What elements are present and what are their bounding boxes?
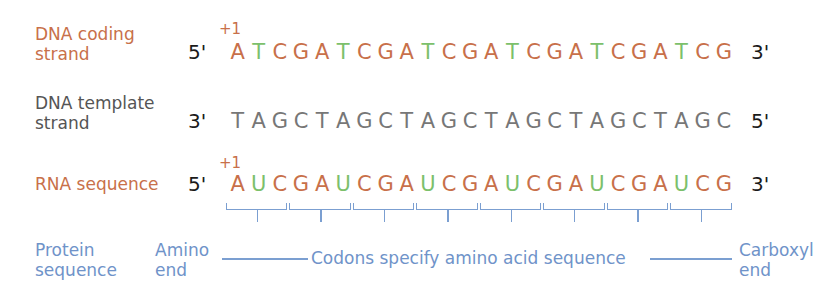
carboxyl-connector-line <box>650 258 732 260</box>
template-base: G <box>269 109 290 133</box>
template-base: C <box>713 109 734 133</box>
template-base: T <box>396 109 417 133</box>
coding-base: C <box>354 40 375 64</box>
template-base: C <box>544 109 565 133</box>
template-5prime-end: 5' <box>751 109 769 133</box>
rna-5prime-end: 5' <box>188 172 206 196</box>
rna-base: C <box>692 172 713 196</box>
codon-bracket <box>289 203 350 210</box>
rna-base: A <box>312 172 333 196</box>
template-base: A <box>671 109 692 133</box>
codon-tick <box>511 210 513 222</box>
coding-strand-label: DNA coding strand <box>35 24 135 64</box>
coding-base: A <box>650 40 671 64</box>
coding-base: C <box>438 40 459 64</box>
template-base: A <box>333 109 354 133</box>
amino-end-label: Amino end <box>155 240 209 280</box>
coding-start-marker: +1 <box>219 21 241 37</box>
codon-tick <box>637 210 639 222</box>
rna-base: G <box>290 172 311 196</box>
coding-base: T <box>586 40 607 64</box>
template-base: C <box>460 109 481 133</box>
rna-base: U <box>502 172 523 196</box>
coding-base: A <box>481 40 502 64</box>
template-base: C <box>290 109 311 133</box>
rna-base: A <box>565 172 586 196</box>
template-base: A <box>248 109 269 133</box>
coding-label-line2: strand <box>35 44 135 64</box>
carboxyl-line2: end <box>739 260 814 280</box>
coding-base: T <box>671 40 692 64</box>
template-base: G <box>608 109 629 133</box>
coding-base: A <box>565 40 586 64</box>
template-label-line1: DNA template <box>35 93 155 113</box>
template-base: T <box>481 109 502 133</box>
rna-base: A <box>227 172 248 196</box>
coding-base: T <box>502 40 523 64</box>
rna-sequence: AUCGAUCGAUCGAUCGAUCGAUCG <box>227 172 734 196</box>
template-strand-sequence: TAGCTAGCTAGCTAGCTAGCTAGC <box>227 109 734 133</box>
coding-label-line1: DNA coding <box>35 24 135 44</box>
codon-tick <box>447 210 449 222</box>
coding-base: G <box>290 40 311 64</box>
rna-base: A <box>396 172 417 196</box>
carboxyl-line1: Carboxyl <box>739 240 814 260</box>
rna-3prime-end: 3' <box>751 172 769 196</box>
codon-bracket <box>607 203 668 210</box>
codon-tick <box>257 210 259 222</box>
rna-base: U <box>586 172 607 196</box>
rna-base: G <box>375 172 396 196</box>
rna-base: C <box>354 172 375 196</box>
codon-bracket <box>670 203 731 210</box>
amino-line2: end <box>155 260 209 280</box>
rna-base: U <box>417 172 438 196</box>
template-base: T <box>227 109 248 133</box>
coding-base: G <box>460 40 481 64</box>
coding-3prime-end: 3' <box>751 40 769 64</box>
coding-base: G <box>713 40 734 64</box>
template-base: C <box>629 109 650 133</box>
carboxyl-end-label: Carboxyl end <box>739 240 814 280</box>
rna-base: C <box>438 172 459 196</box>
amino-connector-line <box>222 258 308 260</box>
rna-start-marker: +1 <box>219 155 241 171</box>
rna-base: G <box>629 172 650 196</box>
rna-base: C <box>269 172 290 196</box>
rna-base: A <box>481 172 502 196</box>
amino-line1: Amino <box>155 240 209 260</box>
codons-specify-text: Codons specify amino acid sequence <box>311 248 626 268</box>
codon-bracket <box>480 203 541 210</box>
rna-base: G <box>713 172 734 196</box>
coding-base: C <box>608 40 629 64</box>
rna-base: A <box>650 172 671 196</box>
coding-base: A <box>227 40 248 64</box>
rna-base: U <box>248 172 269 196</box>
template-base: G <box>354 109 375 133</box>
coding-base: G <box>629 40 650 64</box>
template-base: G <box>692 109 713 133</box>
codon-bracket <box>226 203 287 210</box>
protein-label-line1: Protein <box>35 240 117 260</box>
rna-base: C <box>523 172 544 196</box>
coding-base: C <box>692 40 713 64</box>
coding-base: C <box>523 40 544 64</box>
rna-base: G <box>460 172 481 196</box>
rna-base: C <box>608 172 629 196</box>
rna-base: U <box>333 172 354 196</box>
codon-tick <box>701 210 703 222</box>
template-base: A <box>586 109 607 133</box>
rna-base: U <box>671 172 692 196</box>
coding-5prime-end: 5' <box>188 40 206 64</box>
template-base: A <box>417 109 438 133</box>
codon-tick <box>384 210 386 222</box>
rna-sequence-label: RNA sequence <box>35 174 158 194</box>
coding-base: G <box>544 40 565 64</box>
coding-base: T <box>248 40 269 64</box>
template-base: G <box>438 109 459 133</box>
protein-label-line2: sequence <box>35 260 117 280</box>
codon-tick <box>574 210 576 222</box>
codon-bracket <box>543 203 604 210</box>
coding-strand-sequence: ATCGATCGATCGATCGATCGATCG <box>227 40 734 64</box>
template-strand-label: DNA template strand <box>35 93 155 133</box>
coding-base: G <box>375 40 396 64</box>
